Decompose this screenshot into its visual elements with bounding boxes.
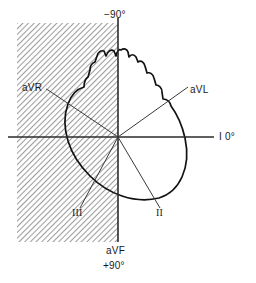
label-lead-iii: III bbox=[72, 208, 83, 218]
label-lead-avf: aVF bbox=[106, 246, 125, 256]
label-plus-90-degrees: +90° bbox=[103, 261, 125, 271]
label-minus-90-degrees: −90° bbox=[104, 10, 126, 20]
diagram-canvas bbox=[0, 0, 256, 283]
label-lead-avl: aVL bbox=[190, 85, 208, 95]
label-lead-avr: aVR bbox=[22, 83, 42, 93]
cardiac-axis-diagram: −90° aVR aVL I 0° III II aVF +90° bbox=[0, 0, 256, 283]
axis-deviation-shaded-region bbox=[17, 23, 118, 242]
label-lead-i: I 0° bbox=[219, 132, 235, 142]
label-lead-ii: II bbox=[156, 208, 163, 218]
lead-line-avl bbox=[118, 87, 188, 137]
